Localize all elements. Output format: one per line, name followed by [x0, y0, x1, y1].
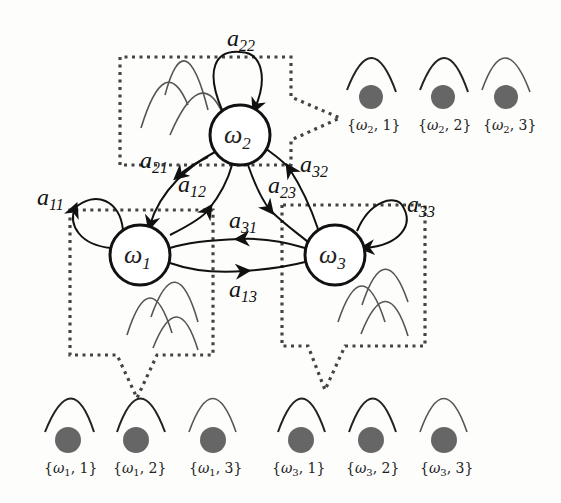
emission-state: {ω3, 3} [420, 399, 473, 479]
edge-a13-tail [245, 262, 305, 271]
svg-text:{ω2, 2}: {ω2, 2} [418, 117, 471, 135]
edge-a12-tail [209, 165, 232, 209]
hmm-diagram: ω2 ω1 ω3 a22 a21 a12 a23 a32 a11 a33 a31… [0, 0, 561, 503]
emission-state: {ω2, 2} [418, 58, 471, 135]
label-a33: a33 [407, 191, 435, 220]
emission-states-w2: {ω2, 1} {ω2, 2} {ω2, 3} [347, 58, 536, 135]
emission-state: {ω2, 1} [347, 58, 400, 135]
emission-state: {ω3, 2} [346, 399, 399, 479]
label-a21: a21 [140, 147, 168, 176]
label-a12: a12 [178, 171, 206, 200]
emission-state: {ω1, 1} [44, 399, 97, 479]
emission-state: {ω1, 3} [189, 399, 242, 479]
edge-a23 [248, 165, 270, 210]
svg-text:{ω3, 3}: {ω3, 3} [420, 460, 473, 478]
node-w2: ω2 [210, 105, 270, 165]
emission-state: {ω2, 3} [482, 58, 536, 135]
svg-text:{ω1, 2}: {ω1, 2} [113, 460, 166, 478]
label-a23: a23 [268, 172, 296, 201]
svg-text:{ω1, 1}: {ω1, 1} [44, 460, 97, 478]
svg-text:{ω3, 2}: {ω3, 2} [346, 460, 399, 478]
label-a13: a13 [229, 276, 257, 305]
emission-state: {ω1, 2} [113, 399, 166, 479]
edge-a22 [214, 52, 262, 110]
edge-a12 [170, 209, 209, 235]
mixture-curves-w2 [141, 61, 222, 135]
edge-a31 [240, 239, 305, 248]
edge-a23-tail [270, 210, 308, 242]
svg-text:{ω3, 1}: {ω3, 1} [272, 460, 325, 478]
emission-states-w3: {ω3, 1} {ω3, 2} {ω3, 3} [272, 399, 473, 479]
node-w1: ω1 [110, 225, 170, 285]
edge-a31-tail [170, 239, 240, 248]
node-w3: ω3 [305, 225, 365, 285]
edge-a13 [170, 263, 245, 272]
label-a11: a11 [37, 184, 64, 213]
emission-state: {ω3, 1} [272, 399, 325, 479]
edge-a33 [357, 200, 407, 248]
mixture-curves-w1 [127, 282, 198, 350]
svg-text:{ω1, 3}: {ω1, 3} [189, 460, 242, 478]
label-a31: a31 [229, 207, 257, 236]
svg-text:{ω2, 1}: {ω2, 1} [347, 117, 400, 135]
label-a32: a32 [300, 151, 328, 180]
label-a22: a22 [227, 25, 255, 54]
svg-text:{ω2, 3}: {ω2, 3} [483, 117, 536, 135]
emission-states-w1: {ω1, 1} {ω1, 2} {ω1, 3} [44, 399, 242, 479]
